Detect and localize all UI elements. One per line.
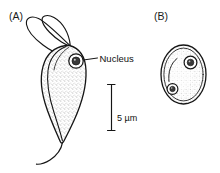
panel-a-label: (A) (9, 10, 23, 22)
karyosome-highlight-b-upper (189, 61, 191, 63)
nucleus-b-lower (167, 84, 178, 95)
nucleus-b-upper (184, 56, 197, 69)
illustration-canvas: (A) (0, 0, 220, 173)
karyosome-highlight-a (74, 59, 76, 61)
karyosome-a (72, 57, 80, 65)
nucleus-label: Nucleus (100, 53, 135, 64)
posterior-flagellum (37, 142, 63, 164)
panel-a-group: (A) (9, 10, 134, 164)
scale-bar-group: 5 µm (108, 85, 138, 131)
scale-bar-label: 5 µm (117, 113, 137, 123)
nucleus-leader-line (83, 58, 97, 60)
cytoplasm-fill-b (158, 42, 210, 108)
nucleus-a (69, 54, 83, 68)
karyosome-highlight-b-lower (171, 87, 173, 89)
panel-b-label: (B) (154, 10, 168, 22)
karyosome-b-upper (187, 59, 194, 66)
karyosome-b-lower (170, 86, 175, 91)
figure-container: (A) (0, 0, 220, 173)
panel-b-group: (B) (154, 10, 210, 108)
